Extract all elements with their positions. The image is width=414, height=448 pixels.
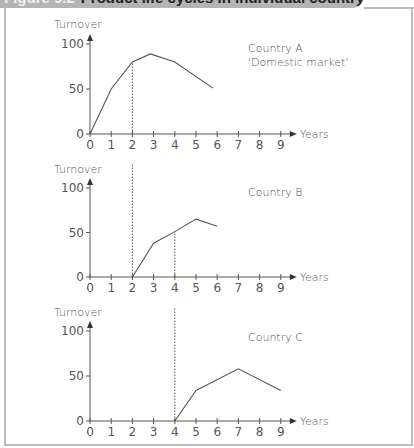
y-tick-label: 50	[69, 82, 84, 96]
country-sublabel: 'Domestic market'	[248, 56, 348, 69]
y-axis-label: Turnover	[54, 306, 102, 319]
x-tick-label: 5	[192, 138, 200, 152]
x-axis-arrow-icon	[290, 274, 297, 280]
x-axis-label: Years	[300, 271, 329, 284]
x-tick-label: 6	[213, 138, 221, 152]
country-label: Country A	[248, 42, 303, 55]
y-tick-label: 100	[61, 181, 84, 195]
turnover-line	[132, 219, 217, 277]
turnover-line	[90, 54, 213, 134]
x-axis-arrow-icon	[290, 418, 297, 424]
x-tick-label: 8	[256, 281, 264, 295]
x-axis-arrow-icon	[290, 131, 297, 137]
x-tick-label: 4	[171, 425, 179, 439]
x-tick-label: 6	[213, 281, 221, 295]
country-label: Country C	[248, 331, 303, 344]
x-tick-label: 6	[213, 425, 221, 439]
x-tick-label: 7	[235, 425, 243, 439]
x-tick-label: 9	[277, 281, 285, 295]
x-tick-label: 1	[107, 281, 115, 295]
x-tick-label: 3	[150, 425, 158, 439]
x-tick-label: 9	[277, 425, 285, 439]
x-tick-label: 0	[86, 425, 94, 439]
x-tick-label: 1	[107, 425, 115, 439]
y-axis-arrow-icon	[87, 321, 93, 328]
y-tick-label: 0	[76, 414, 84, 428]
charts-canvas: 0123456789050100TurnoverYearsCountry A'D…	[0, 0, 414, 448]
y-axis-label: Turnover	[54, 163, 102, 176]
x-tick-label: 4	[171, 138, 179, 152]
y-tick-label: 50	[69, 226, 84, 240]
y-tick-label: 100	[61, 37, 84, 51]
turnover-line	[175, 369, 281, 421]
x-tick-label: 9	[277, 138, 285, 152]
x-tick-label: 2	[129, 425, 137, 439]
x-tick-label: 5	[192, 281, 200, 295]
x-tick-label: 0	[86, 138, 94, 152]
x-tick-label: 5	[192, 425, 200, 439]
y-tick-label: 0	[76, 127, 84, 141]
y-axis-arrow-icon	[87, 34, 93, 41]
y-axis-arrow-icon	[87, 178, 93, 185]
y-axis-label: Turnover	[54, 18, 102, 31]
y-tick-label: 50	[69, 369, 84, 383]
x-tick-label: 4	[171, 281, 179, 295]
x-tick-label: 7	[235, 281, 243, 295]
y-tick-label: 0	[76, 270, 84, 284]
x-tick-label: 0	[86, 281, 94, 295]
x-tick-label: 2	[129, 281, 137, 295]
x-tick-label: 7	[235, 138, 243, 152]
x-tick-label: 3	[150, 138, 158, 152]
x-tick-label: 8	[256, 138, 264, 152]
y-tick-label: 100	[61, 324, 84, 338]
country-label: Country B	[248, 186, 302, 199]
x-tick-label: 2	[129, 138, 137, 152]
x-tick-label: 8	[256, 425, 264, 439]
x-axis-label: Years	[300, 128, 329, 141]
x-tick-label: 1	[107, 138, 115, 152]
x-tick-label: 3	[150, 281, 158, 295]
x-axis-label: Years	[300, 415, 329, 428]
